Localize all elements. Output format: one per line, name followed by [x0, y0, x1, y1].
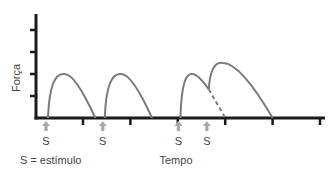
curves	[48, 63, 273, 118]
stimulus-marker: S	[42, 121, 50, 147]
stimulus-label: S	[42, 135, 49, 147]
stimulus-label: S	[99, 135, 106, 147]
curve-twitch-1	[48, 74, 95, 118]
stimulus-marker: S	[203, 121, 211, 147]
curve-twitch-2	[105, 74, 152, 118]
stimuli: SSSS	[42, 121, 211, 147]
stimulus-marker: S	[99, 121, 107, 147]
up-arrow-icon	[42, 121, 50, 131]
x-axis-label: Tempo	[159, 154, 192, 166]
axes	[30, 14, 325, 125]
stimulus-marker: S	[174, 121, 182, 147]
y-axis-label: Força	[10, 63, 22, 92]
up-arrow-icon	[174, 121, 182, 131]
curve-summation-first-rise	[180, 74, 208, 118]
up-arrow-icon	[203, 121, 211, 131]
stimulus-label: S	[175, 135, 182, 147]
up-arrow-icon	[99, 121, 107, 131]
stimulus-label: S	[203, 135, 210, 147]
curve-unsummed-decay	[209, 89, 226, 118]
curve-summation-second-twitch	[209, 63, 273, 118]
legend-note: S = estímulo	[20, 154, 81, 166]
twitch-summation-chart: SSSS Força Tempo S = estímulo	[0, 0, 330, 175]
